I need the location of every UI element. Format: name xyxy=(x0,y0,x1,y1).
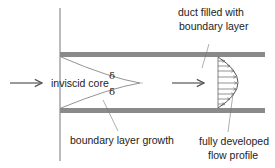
parabolic-profile-curve xyxy=(218,57,238,108)
boundary-layer-growth-leader xyxy=(103,100,118,131)
inviscid-core-label: inviscid core xyxy=(51,77,109,89)
boundary-layer-growth-label: boundary layer growth xyxy=(70,134,174,146)
top-wall xyxy=(60,52,265,57)
fully-developed-label-line1: fully developed xyxy=(199,135,269,147)
delta-top-label: δ xyxy=(109,70,115,81)
duct-filled-label-line1: duct filled with xyxy=(178,6,244,18)
fully-developed-label-line2: flow profile xyxy=(208,149,258,161)
duct-flow-diagram: inviscid core δ δ boundary layer growth … xyxy=(0,0,275,168)
duct-filled-label-line2: boundary layer xyxy=(179,20,249,32)
delta-bottom-label: δ xyxy=(109,86,115,97)
velocity-vectors xyxy=(218,61,237,104)
bottom-wall xyxy=(60,108,265,113)
